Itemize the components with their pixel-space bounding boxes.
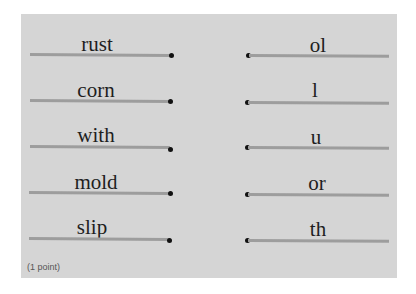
right-word-4: or [308,173,326,194]
right-word-5: th [310,219,326,240]
right-word-3: u [311,127,322,148]
left-connector-dot-1[interactable] [169,53,174,58]
left-connector-dot-4[interactable] [168,191,173,196]
left-word-5: slip [77,217,107,238]
left-word-2: corn [77,80,114,101]
left-word-4: mold [74,172,117,193]
right-word-1: ol [310,35,326,56]
left-connector-dot-2[interactable] [168,99,173,104]
points-label: (1 point) [27,262,60,272]
left-connector-dot-5[interactable] [167,238,172,243]
left-word-1: rust [81,34,113,55]
left-connector-dot-3[interactable] [168,147,173,152]
left-word-3: with [77,125,114,146]
right-word-2: l [312,80,318,101]
